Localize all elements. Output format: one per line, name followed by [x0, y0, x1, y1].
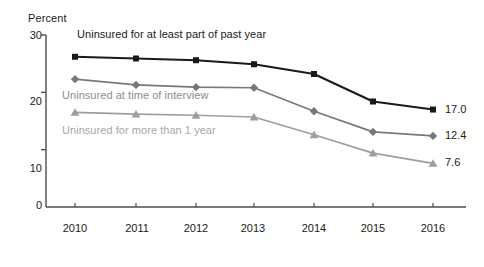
x-tick-label-2012: 2012	[171, 222, 221, 234]
endpoint-value-series2: 12.4	[445, 129, 466, 141]
series-3	[71, 108, 438, 167]
series-label-uninsured-more-than-1-year: Uninsured for more than 1 year	[62, 124, 216, 136]
y-tick-label-20: 20	[4, 95, 42, 107]
endpoint-value-series3: 7.6	[445, 156, 460, 168]
x-tick-label-2015: 2015	[348, 222, 398, 234]
endpoint-value-series1: 17.0	[445, 103, 466, 115]
x-tick-label-2013: 2013	[228, 222, 278, 234]
x-tick-label-2011: 2011	[112, 222, 162, 234]
y-tick-label-30: 30	[4, 29, 42, 41]
y-tick-label-0: 0	[4, 199, 42, 211]
series-label-uninsured-part-of-past-year: Uninsured for at least part of past year	[77, 28, 266, 40]
series-lines	[71, 54, 438, 167]
x-tick-label-2014: 2014	[289, 222, 339, 234]
axis-lines	[41, 35, 466, 207]
series-label-uninsured-at-time-of-interview: Uninsured at time of interview	[62, 89, 208, 101]
x-tick-label-2016: 2016	[408, 222, 458, 234]
x-tick-label-2010: 2010	[50, 222, 100, 234]
y-axis-title: Percent	[28, 12, 67, 24]
chart-container: Percent 30 20 10 0 2010 2011 2012 2013 2…	[0, 0, 484, 267]
y-tick-label-10: 10	[4, 162, 42, 174]
